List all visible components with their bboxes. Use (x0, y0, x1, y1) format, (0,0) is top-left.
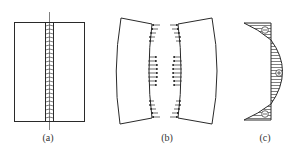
minus-sign-bottom (262, 111, 269, 118)
left-plate-half (116, 18, 152, 124)
panel-c-label: (c) (259, 132, 270, 144)
shrinkage-arrows-left (148, 25, 160, 117)
shrinkage-arrows-right (170, 25, 182, 117)
plus-sign-middle (276, 70, 283, 77)
panel-a: (a) (15, 12, 85, 144)
panel-a-label: (a) (42, 132, 53, 144)
figure-canvas: (a) (0, 0, 295, 155)
right-plate-half (178, 18, 217, 124)
panel-c: (c) (244, 23, 283, 144)
panel-b-label: (b) (161, 132, 173, 144)
panel-b: (b) (116, 18, 217, 144)
minus-sign-top (262, 27, 269, 34)
